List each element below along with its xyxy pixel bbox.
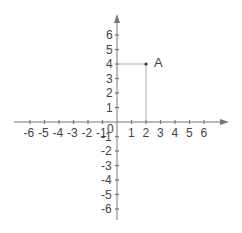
x-axis-arrow-icon	[220, 119, 229, 125]
y-tick-label: 4	[106, 58, 113, 70]
projection-lines	[117, 64, 146, 122]
axes	[14, 14, 229, 220]
x-tick-label: -3	[67, 127, 78, 139]
data-points	[144, 62, 147, 65]
x-tick-label: 5	[186, 127, 193, 139]
origin-label: 0	[107, 123, 114, 135]
y-tick-label: 2	[106, 87, 113, 99]
y-tick-label: -3	[101, 160, 112, 172]
y-tick-label: 3	[106, 73, 113, 85]
y-tick-label: 6	[106, 29, 113, 41]
x-tick-label: 2	[143, 127, 150, 139]
x-tick-label: 6	[201, 127, 208, 139]
x-tick-label: -6	[24, 127, 35, 139]
x-tick-label: 4	[172, 127, 179, 139]
point-a	[144, 62, 147, 65]
y-tick-label: -4	[101, 174, 112, 186]
x-tick-label: -2	[82, 127, 93, 139]
coordinate-plane	[0, 0, 242, 233]
y-tick-label: -6	[101, 203, 112, 215]
x-tick-label: -4	[53, 127, 64, 139]
y-tick-label: 5	[106, 44, 113, 56]
y-axis-arrow-icon	[114, 14, 120, 23]
point-label-a: A	[154, 56, 163, 69]
x-tick-label: 3	[157, 127, 164, 139]
y-tick-label: -5	[101, 189, 112, 201]
x-tick-label: -5	[38, 127, 49, 139]
y-tick-label: 1	[106, 102, 113, 114]
y-tick-label: -2	[101, 145, 112, 157]
x-tick-label: 1	[128, 127, 135, 139]
